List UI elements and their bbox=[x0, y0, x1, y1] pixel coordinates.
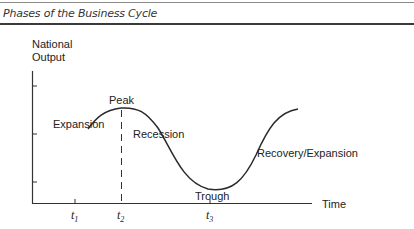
x-tick-label-t1: t1 bbox=[71, 208, 78, 224]
y-axis-label-line1: National bbox=[32, 38, 72, 50]
y-axis-label-line2: Output bbox=[32, 51, 65, 63]
label-expansion: Expansion bbox=[53, 118, 104, 130]
x-tick-label-t3: t3 bbox=[206, 208, 213, 224]
label-peak: Peak bbox=[109, 94, 135, 106]
label-recession: Recession bbox=[133, 128, 184, 140]
label-trough: Trough bbox=[195, 190, 229, 202]
x-tick-label-t2: t2 bbox=[117, 208, 124, 224]
x-axis-label: Time bbox=[322, 198, 346, 210]
label-recovery-expansion: Recovery/Expansion bbox=[257, 147, 358, 159]
business-cycle-diagram: National Output Expansion Peak Recession… bbox=[0, 0, 414, 229]
